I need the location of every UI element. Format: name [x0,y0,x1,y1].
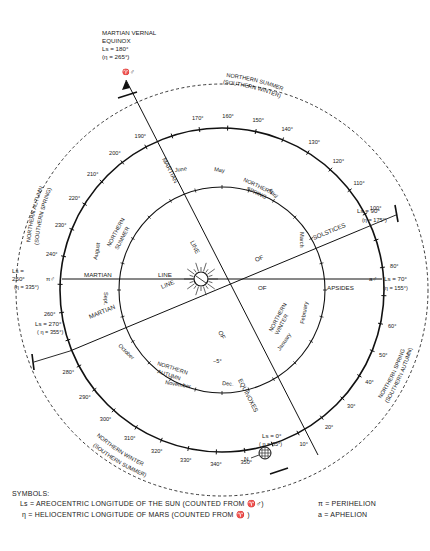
degree-label: 340° [210,461,222,467]
vernal-equinox-title-2: EQUINOX [102,37,131,44]
solstice-line-of: OF [254,253,265,263]
degree-label: 50° [379,352,387,358]
orbit-tick [61,256,66,257]
degree-label: 320° [151,448,163,454]
ls0-label: Ls = 0° [262,432,282,439]
degree-label: 150° [252,117,264,123]
degree-label: 300° [100,416,112,422]
sun-ray [196,287,199,296]
equinox-line-equinoxes: EQUINOXES [237,377,260,413]
sun-ray [207,269,214,274]
degree-label: 260° [44,311,56,317]
sun-ray [187,269,194,274]
outer-season-circle [16,84,428,496]
sun-ray [196,263,199,272]
vernal-equinox-title-1: MARTIAN VERNAL [102,29,157,36]
month-october: October [117,342,135,360]
sun-ray [187,284,194,289]
ls270-label: Ls = 270° [35,320,62,327]
sun-ray [203,287,206,296]
sun-ray [209,281,213,282]
legend-aphelion: a = APHELION [318,511,367,518]
vernal-equinox-eta: (η = 265°) [102,53,129,60]
month-may: May [214,166,226,173]
degree-label: 190° [135,133,147,139]
degree-label: 200° [109,150,121,156]
degree-label: 160° [222,113,234,119]
degree-label: 240° [46,251,58,257]
sun-ray [194,285,196,288]
equinox-line-line: LINE [189,239,201,254]
calendar-tick [320,316,324,317]
sun-ray [190,275,194,276]
legend-eta-row: η = HELIOCENTRIC LONGITUDE OF MARS (COUN… [22,511,250,519]
degree-label: 40° [365,379,373,385]
calendar-tick [320,263,324,264]
degree-label: 110° [354,180,365,186]
sun-ray [194,269,196,272]
degree-label: 60° [388,323,396,329]
eta-symbol: η [22,511,26,518]
orbit-tick [380,267,385,268]
month-february: February [299,301,309,324]
ls90-label: Ls = 90° [357,207,380,214]
degree-label: 280° [63,369,75,375]
degree-label: 10° [299,441,307,447]
orbit-tick [59,312,64,313]
calendar-ticks [117,185,327,395]
orbit-tick [188,446,189,451]
sun-ray [190,281,194,282]
degree-label: 120° [333,158,345,164]
degree-label: 170° [192,115,204,121]
aphelion-symbol: a♂ [369,275,377,282]
legend-heading: SYMBOLS: [12,490,49,497]
degree-label: 330° [180,457,192,463]
month-august: August [92,242,101,261]
minus5-label: −5° [213,358,222,364]
outer-mark-left [32,354,34,370]
sun-ray [206,269,208,272]
apsides-line-of: OF [258,284,267,291]
ls270-extension [34,351,70,362]
mars-seasons-diagram: 10°20°30°40°50°60°80°100°110°120°130°140… [0,0,430,551]
outer-mark-right [395,205,398,222]
equinox-line [126,80,318,455]
solstice-line-line: LINE [160,278,175,290]
apsides-line-line: LINE [158,271,172,278]
solstice-line-martian: MARTIAN [88,303,116,320]
equinox-symbol: ♈♂ [122,68,135,76]
degree-label: 290° [79,394,91,400]
calendar-tick [195,388,196,392]
degree-label: 80° [390,263,398,269]
month-sept: Sept. [103,292,109,306]
degree-label: 230° [55,222,67,228]
ls70-label: Ls = 70° [384,275,407,282]
north-marker-label: N [244,455,248,462]
ls270-eta: ( η = 355°) [37,329,63,335]
sun-ray [206,285,208,288]
month-march: March [299,232,305,248]
legend-ls-row: Ls = AREOCENTRIC LONGITUDE OF THE SUN (C… [20,500,264,508]
degree-label: 220° [69,195,81,201]
calendar-tick [121,316,125,317]
degree-label: 130° [308,139,320,145]
month-june: June [174,165,187,173]
degree-label: 30° [347,403,355,409]
ls-definition: = AREOCENTRIC LONGITUDE OF THE SUN (COUN… [30,500,264,507]
degree-label: 210° [87,171,99,177]
ls90-eta: (η = 175°) [362,217,387,223]
calendar-tick [121,263,125,264]
ls250-label: Ls = [12,267,24,274]
ls250-value: 250° [12,275,25,282]
sun-ray [203,263,206,272]
degree-label: 140° [281,126,293,132]
eta-definition: = HELIOCENTRIC LONGITUDE OF MARS (COUNTE… [28,511,249,518]
apsides-line-martian: MARTIAN [84,271,112,278]
calendar-tick [195,189,196,193]
legend-perihelion: π = PERIHELION [318,500,376,507]
ls-symbol: Ls [20,500,28,507]
degree-label: 20° [325,424,333,430]
sun-ray [209,275,213,276]
ls250-eta: (η = 335°) [14,284,39,290]
orbit-tick [255,129,256,134]
